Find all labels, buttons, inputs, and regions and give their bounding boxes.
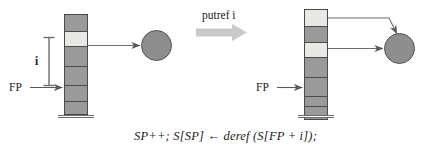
stack-cell-highlight (304, 42, 328, 57)
offset-bracket-before (44, 38, 55, 86)
stack-cell-highlight (304, 9, 328, 26)
offset-label-before: i (35, 56, 38, 68)
stack-cell (304, 96, 328, 106)
stack-cell (304, 26, 328, 42)
stack-after (304, 9, 328, 120)
stack-before (64, 14, 88, 115)
transition-label: putref i (202, 10, 236, 22)
caption-formula: SP++; S[SP] ← deref (S[FP + i]); (134, 129, 317, 144)
stack-base-after (298, 115, 334, 118)
stack-cell (304, 77, 328, 96)
stack-cell (64, 14, 88, 31)
heap-cell-before (141, 30, 172, 61)
fp-label-after: FP (256, 82, 269, 94)
stack-cell (64, 46, 88, 66)
fp-label-before: FP (9, 82, 22, 94)
stack-cell (64, 66, 88, 85)
heap-cell-after (384, 33, 415, 64)
transition-block-arrow (196, 24, 247, 41)
pointer-arrow-after-top (328, 18, 398, 34)
stack-cell (304, 57, 328, 77)
stack-cell (64, 85, 88, 101)
stack-base-before (58, 115, 94, 118)
stack-cell (64, 101, 88, 115)
figure-canvas: i FP putref i FP SP++; S[SP] ← deref (S[… (0, 0, 434, 151)
stack-cell-highlight (64, 31, 88, 46)
